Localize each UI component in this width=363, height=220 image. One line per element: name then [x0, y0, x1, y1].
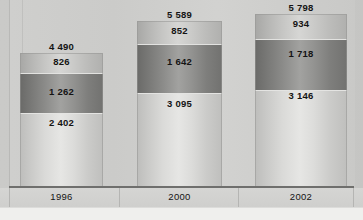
bar-segment-bottom-2002[interactable]	[255, 91, 347, 187]
bar-total-label-2000: 5 589	[137, 9, 222, 20]
x-axis-category-2000: 2000	[137, 191, 222, 202]
stacked-bar-chart: 4 490 826 1 262 2 402 5 589 852 1 642 3 …	[0, 0, 363, 220]
bar-total-label-1996: 4 490	[20, 41, 103, 52]
bar-segment-middle-value-2000: 1 642	[137, 56, 222, 67]
bar-segment-middle-2000[interactable]	[137, 45, 222, 94]
bar-segment-bottom-value-2002: 3 146	[255, 90, 347, 101]
bar-total-label-2002: 5 798	[255, 2, 347, 13]
x-axis-separator-right	[353, 188, 354, 207]
caption-strip	[0, 207, 363, 220]
bar-segment-bottom-value-2000: 3 095	[137, 98, 222, 109]
bar-segment-top-value-1996: 826	[20, 56, 103, 67]
x-axis-separator-2	[238, 188, 239, 207]
bar-segment-middle-value-2002: 1 718	[255, 48, 347, 59]
x-axis-category-1996: 1996	[20, 191, 103, 202]
x-axis-separator-left	[9, 188, 10, 207]
bar-segment-middle-value-1996: 1 262	[20, 86, 103, 97]
bar-segment-top-value-2000: 852	[137, 25, 222, 36]
x-axis-separator-1	[119, 188, 120, 207]
bar-segment-bottom-value-1996: 2 402	[20, 117, 103, 128]
x-axis-category-2002: 2002	[255, 191, 347, 202]
bar-segment-top-value-2002: 934	[255, 18, 347, 29]
